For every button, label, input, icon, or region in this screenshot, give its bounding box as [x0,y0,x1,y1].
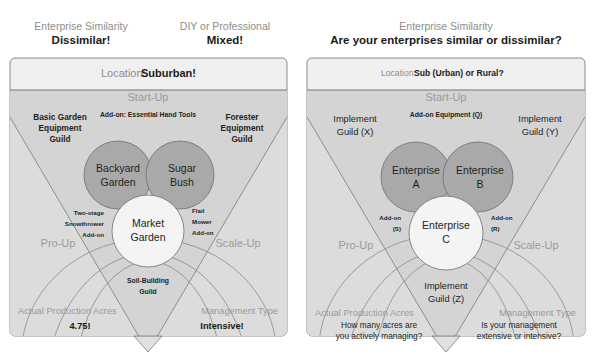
circle-enterprise-c-line1: Enterprise [422,219,470,231]
guild-left-line1: Basic Garden [33,112,87,122]
header-diy-or-professional: DIY or Professional Mixed! [150,20,300,47]
footer-right-label: Management Type [499,308,576,318]
circle-sugar-bush-line1: Sugar [168,162,197,174]
left-venn-diagram: Location: Suburban! Start-Up Basic Garde… [0,52,297,352]
location-label: Location: [101,67,146,79]
circle-market-garden-line2: Garden [130,231,165,243]
addon-left-line1: Two-stage [74,209,105,216]
right-venn-diagram: Location: Sub (Urban) or Rural? Start-Up… [297,52,595,352]
addon-left-line1: Add-on [379,214,401,221]
location-value: Suburban! [141,67,196,79]
footer-right-value-line1: Is your management [481,320,557,330]
addon-left-line2: Snowthrower [65,220,105,227]
header-main-value: Mixed! [150,33,300,47]
stage-start-up-label: Start-Up [426,91,467,103]
addon-top-label: Add-on: Essential Hand Tools [100,111,196,118]
footer-left-value: 4.75! [69,321,90,331]
header-main-question: Are your enterprises similar or dissimil… [297,33,595,47]
header-sub-label: DIY or Professional [150,20,300,33]
right-panel-header: Enterprise Similarity Are your enterpris… [297,0,595,58]
footer-right-value-line2: extensive or intensive? [477,331,562,341]
guild-left-line3: Guild [49,134,70,144]
circle-backyard-garden-line1: Backyard [96,162,140,174]
footer-right-value: Intensive! [200,321,243,331]
location-label: Location: [381,68,416,78]
stage-scale-up-label: Scale-Up [215,237,260,249]
stage-pro-up-label: Pro-Up [41,237,76,249]
footer-left-value-line1: How many acres are [341,320,417,330]
circle-enterprise-b-line2: B [476,178,483,190]
right-panel: Enterprise Similarity Are your enterpris… [297,0,595,355]
triangle-tip [432,336,460,352]
guild-left-line2: Equipment [39,123,82,133]
circle-enterprise-a-line1: Enterprise [392,164,440,176]
footer-left-value-line2: you actively managing? [336,331,423,341]
guild-bottom-line1: Implement [424,281,468,291]
location-value: Sub (Urban) or Rural? [414,68,504,78]
addon-left-line2: (S) [393,225,401,232]
diagram-canvas: Enterprise Similarity Dissimilar! DIY or… [0,0,595,355]
guild-right-line1: Implement [518,114,562,124]
guild-right-line3: Guild [231,134,252,144]
addon-right-line3: Add-on [192,229,214,236]
header-enterprise-similarity: Enterprise Similarity Dissimilar! [6,20,156,47]
footer-left-label: Actual Production Acres [18,306,117,316]
guild-left-line2: Guild (X) [337,127,374,137]
guild-right-line2: Guild (Y) [522,127,559,137]
stage-pro-up-label: Pro-Up [339,239,374,251]
header-enterprise-similarity: Enterprise Similarity Are your enterpris… [297,20,595,47]
circle-enterprise-a-line2: A [412,178,419,190]
stage-scale-up-label: Scale-Up [513,239,558,251]
addon-top-label: Add-on Equipment (Q) [410,111,483,119]
triangle-tip [134,336,162,352]
header-main-value: Dissimilar! [6,33,156,47]
guild-left-line1: Implement [333,114,377,124]
guild-bottom-line2: Guild [139,288,156,295]
addon-right-line2: (R) [491,225,500,232]
circle-enterprise-b-line1: Enterprise [456,164,504,176]
footer-right-label: Management Type [201,306,278,316]
guild-right-line1: Forester [225,112,259,122]
circle-market-garden-line1: Market [132,217,164,229]
circle-sugar-bush-line2: Bush [170,176,194,188]
addon-right-line1: Flail [192,207,205,214]
stage-start-up-label: Start-Up [128,91,169,103]
addon-right-line1: Add-on [491,214,513,221]
footer-left-label: Actual Production Acres [315,308,414,318]
addon-right-line2: Mower [192,218,212,225]
guild-bottom-line1: Soil-Building [127,277,169,285]
circle-enterprise-c-line2: C [442,233,450,245]
circle-backyard-garden-line2: Garden [100,176,135,188]
addon-left-line3: Add-on [82,231,104,238]
header-sub-label: Enterprise Similarity [297,20,595,33]
left-panel-header: Enterprise Similarity Dissimilar! DIY or… [0,0,297,58]
guild-right-line2: Equipment [221,123,264,133]
header-sub-label: Enterprise Similarity [6,20,156,33]
left-panel: Enterprise Similarity Dissimilar! DIY or… [0,0,297,355]
guild-bottom-line2: Guild (Z) [428,294,464,304]
